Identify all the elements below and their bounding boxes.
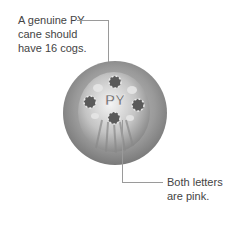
leader-line-bottom-vertical — [122, 120, 123, 182]
leader-line-bottom-horizontal — [122, 182, 163, 183]
callout-line: Both letters — [167, 175, 233, 189]
callout-letter-color: Both letters are pink. — [167, 175, 233, 203]
cane-letters: PY — [105, 91, 125, 108]
millefiori-cane-image: PY — [62, 60, 168, 166]
callout-line: have 16 cogs. — [18, 41, 88, 55]
callout-line: cane should — [18, 27, 88, 41]
leader-line-top-horizontal — [77, 20, 109, 21]
cane-disc-illustration: PY — [62, 60, 168, 166]
callout-line: are pink. — [167, 189, 233, 203]
